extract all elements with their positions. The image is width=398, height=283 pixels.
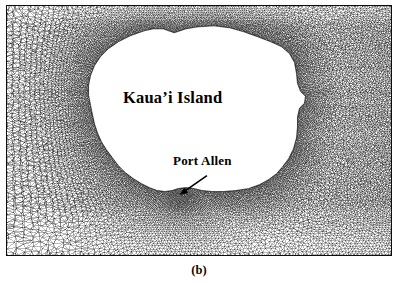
port-allen-label: Port Allen bbox=[173, 154, 232, 167]
island-label: Kaua’i Island bbox=[123, 90, 222, 107]
figure-root: Kaua’i Island Port Allen (b) bbox=[0, 0, 398, 283]
mesh-panel: Kaua’i Island Port Allen bbox=[6, 5, 392, 256]
figure-caption: (b) bbox=[0, 263, 398, 278]
mesh-triangulation bbox=[7, 6, 391, 255]
